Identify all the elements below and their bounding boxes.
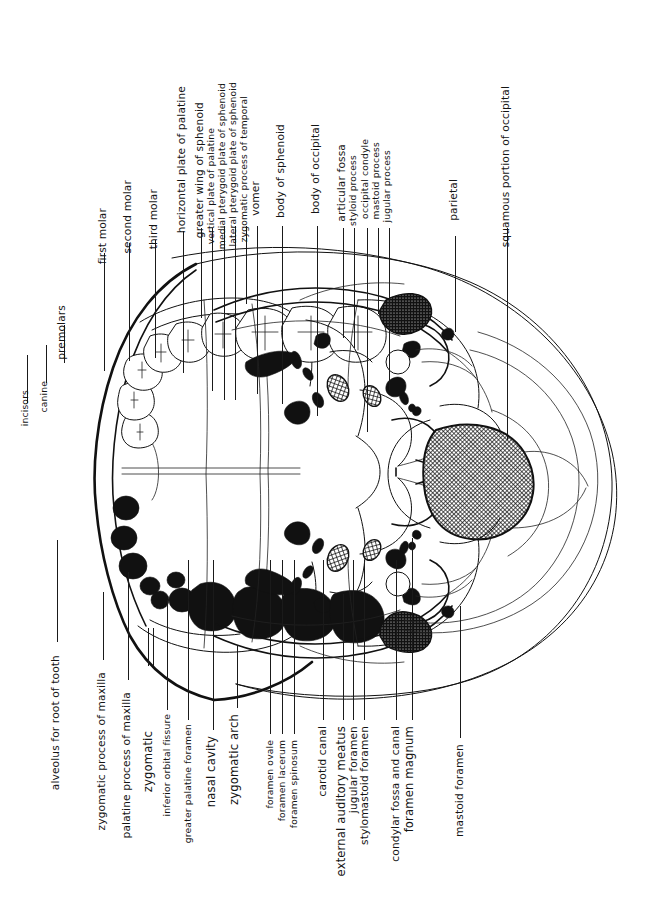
leader-styloid-process xyxy=(354,228,355,348)
leader-squamous-portion-of-occipital xyxy=(507,228,508,440)
leader-carotid-canal xyxy=(323,560,324,720)
label-foramen-ovale: foramen ovale xyxy=(265,740,274,808)
leader-foramen-spinosum xyxy=(294,560,295,734)
label-lateral-pterygoid-plate-of-sphenoid: lateral pterygoid plate of sphenoid xyxy=(228,82,237,247)
leader-mastoid-process xyxy=(378,228,379,314)
leader-zygomatic xyxy=(148,628,149,666)
label-styloid-process: styloid process xyxy=(348,155,357,226)
label-inferior-orbital-fissure: inferior orbital fissure xyxy=(162,714,171,816)
basal-foramina xyxy=(284,366,421,580)
leader-second-molar xyxy=(129,243,130,361)
leader-greater-wing-of-sphenoid xyxy=(201,228,202,318)
leader-foramen-ovale xyxy=(270,560,271,734)
leader-third-molar xyxy=(155,240,156,358)
label-body-of-sphenoid: body of sphenoid xyxy=(275,124,286,218)
label-horizontal-plate-of-palatine: horizontal plate of palatine xyxy=(176,86,187,233)
label-jugular-foramen: jugular foramen xyxy=(348,726,359,813)
label-jugular-process: jugular process xyxy=(382,150,391,222)
label-incisors: incisors xyxy=(20,390,29,426)
figure-canvas: incisors canine premolars first molar se… xyxy=(0,0,645,914)
label-carotid-canal: carotid canal xyxy=(317,726,328,797)
label-articular-fossa: articular fossa xyxy=(336,144,347,222)
label-body-of-occipital: body of occipital xyxy=(310,124,321,214)
occipital-region xyxy=(388,332,598,633)
leader-articular-fossa xyxy=(343,228,344,338)
leader-zygomatic-arch xyxy=(237,646,238,708)
leader-lateral-pterygoid-plate-of-sphenoid xyxy=(235,226,236,400)
label-second-molar: second molar xyxy=(122,180,133,254)
leader-medial-pterygoid-plate-of-sphenoid xyxy=(224,226,225,400)
label-mastoid-process: mastoid process xyxy=(371,142,380,219)
label-foramen-lacerum: foramen lacerum xyxy=(277,740,286,821)
leader-zygomatic-process-of-maxilla xyxy=(103,592,104,660)
label-external-auditory-meatus: external auditory meatus xyxy=(336,726,348,876)
leader-horizontal-plate-of-palatine xyxy=(183,231,184,373)
label-greater-palatine-foramen: greater palatine foramen xyxy=(183,724,192,843)
label-nasal-cavity: nasal cavity xyxy=(206,736,218,807)
leader-inferior-orbital-fissure xyxy=(167,600,168,710)
label-vomer: vomer xyxy=(250,181,261,216)
leader-body-of-occipital xyxy=(317,226,318,416)
leader-foramen-lacerum xyxy=(282,560,283,734)
label-third-molar: third molar xyxy=(148,189,159,249)
label-parietal: parietal xyxy=(448,179,459,221)
label-squamous-portion-of-occipital: squamous portion of occipital xyxy=(500,86,511,247)
leader-nasal-cavity xyxy=(213,560,214,730)
label-first-molar: first molar xyxy=(97,208,108,264)
leader-zygomatic-2 xyxy=(153,628,154,666)
label-premolars: premolars xyxy=(56,305,67,360)
label-vertical-plate-of-palatine: vertical plate of palatine xyxy=(206,128,215,244)
leader-occipital-condyle xyxy=(367,228,368,432)
label-occipital-condyle: occipital condyle xyxy=(360,139,369,219)
leader-condylar-fossa-and-canal xyxy=(396,560,397,720)
label-zygomatic-process-of-maxilla: zygomatic process of maxilla xyxy=(96,672,107,830)
leader-jugular-process xyxy=(389,228,390,390)
label-palatine-process-of-maxilla: palatine process of maxilla xyxy=(121,692,132,838)
label-condylar-fossa-and-canal: condylar fossa and canal xyxy=(390,726,401,862)
leader-palatine-process-of-maxilla xyxy=(128,572,129,680)
leader-parietal xyxy=(455,236,456,332)
label-foramen-spinosum: foramen spinosum xyxy=(289,740,298,828)
label-zygomatic-process-of-temporal: zygomatic process of temporal xyxy=(239,96,248,242)
label-zygomatic-arch: zygomatic arch xyxy=(229,714,241,805)
leader-jugular-foramen xyxy=(353,560,354,720)
leader-alveolus-for-root-of-tooth xyxy=(57,540,58,642)
leader-foramen-magnum xyxy=(412,538,413,720)
label-canine: canine xyxy=(39,381,48,412)
label-greater-wing-of-sphenoid: greater wing of sphenoid xyxy=(194,102,205,238)
leader-greater-palatine-foramen xyxy=(188,560,189,720)
label-foramen-magnum: foramen magnum xyxy=(404,726,416,832)
leader-vertical-plate-of-palatine xyxy=(212,228,213,391)
label-medial-pterygoid-plate-of-sphenoid: medial pterygoid plate of sphenoid xyxy=(217,83,226,249)
leader-mastoid-foramen xyxy=(460,606,461,738)
leader-external-auditory-meatus xyxy=(343,594,344,720)
label-zygomatic: zygomatic xyxy=(143,731,155,792)
label-mastoid-foramen: mastoid foramen xyxy=(454,744,465,837)
leader-body-of-sphenoid xyxy=(282,226,283,404)
label-alveolus-for-root-of-tooth: alveolus for root of tooth xyxy=(50,655,61,790)
leader-stylomastoid-foramen xyxy=(364,560,365,720)
label-stylomastoid-foramen: stylomastoid foramen xyxy=(359,726,370,845)
leader-canine xyxy=(46,345,47,383)
leader-vomer xyxy=(257,226,258,394)
leader-first-molar xyxy=(104,253,105,371)
